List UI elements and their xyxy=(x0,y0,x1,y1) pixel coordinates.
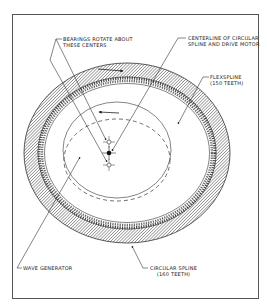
label-bearings-line2: THESE CENTERS xyxy=(63,42,133,48)
label-centerline: CENTERLINE OF CIRCULAR SPLINE AND DRIVE … xyxy=(188,35,260,47)
label-wave-generator: WAVE GENERATOR xyxy=(23,265,72,271)
label-circular-spline-line2: (160 TEETH) xyxy=(150,271,197,277)
label-centerline-line2: SPLINE AND DRIVE MOTOR xyxy=(188,41,260,47)
label-flexspline-line2: (150 TEETH) xyxy=(210,80,243,86)
label-circular-spline: CIRCULAR SPLINE (160 TEETH) xyxy=(150,265,197,277)
label-wave-generator-line1: WAVE GENERATOR xyxy=(23,265,72,271)
label-bearings: BEARINGS ROTATE ABOUT THESE CENTERS xyxy=(63,36,133,48)
leader-circular-spline xyxy=(132,246,148,268)
label-flexspline: FLEXSPLINE (150 TEETH) xyxy=(210,74,243,86)
